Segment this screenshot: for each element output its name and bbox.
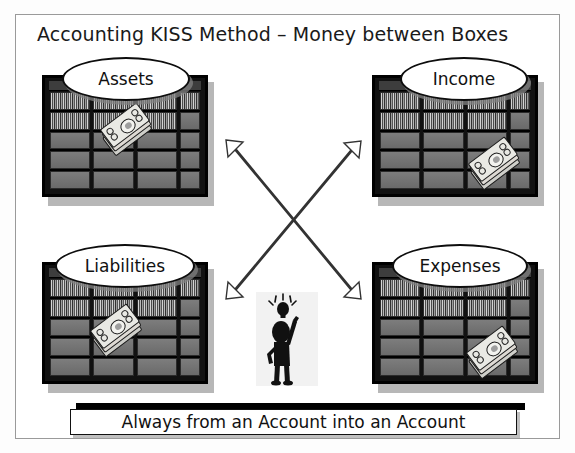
figure-torso [274, 342, 290, 366]
footer-banner: Always from an Account into an Account [70, 403, 525, 435]
box-label-liabilities[interactable]: Liabilities [55, 244, 195, 288]
banner-text: Always from an Account into an Account [122, 412, 466, 432]
label-text: Expenses [420, 256, 501, 276]
figure-right-foot [283, 381, 293, 386]
stick-figure-with-idea [256, 292, 318, 386]
label-text: Liabilities [85, 256, 165, 276]
page-title: Accounting KISS Method – Money between B… [37, 23, 508, 45]
box-label-income[interactable]: Income [400, 57, 528, 101]
box-label-expenses[interactable]: Expenses [392, 244, 528, 288]
diagram-canvas: Accounting KISS Method – Money between B… [0, 0, 575, 453]
box-label-assets[interactable]: Assets [62, 57, 190, 101]
shelf-grid [380, 279, 530, 376]
banner-body: Always from an Account into an Account [70, 409, 517, 435]
label-text: Assets [98, 69, 153, 89]
figure-left-foot [271, 381, 281, 386]
label-text: Income [433, 69, 496, 89]
figure-left-leg [274, 365, 280, 383]
figure-right-leg [284, 365, 290, 383]
figure-head [272, 321, 290, 343]
